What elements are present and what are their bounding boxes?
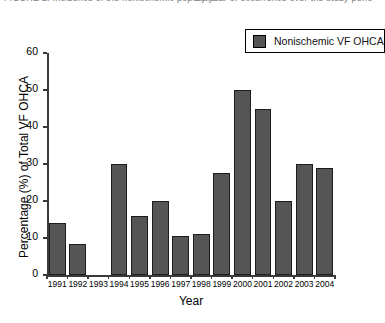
- plot-area: 0102030405060: [47, 53, 335, 275]
- x-axis-tick-label-1994: 1994: [109, 278, 130, 290]
- bar-1996: [152, 201, 169, 275]
- y-axis-tick: 10: [43, 237, 47, 239]
- x-axis-tick-label-1991: 1991: [47, 278, 68, 290]
- x-axis-tick-label-1998: 1998: [191, 278, 212, 290]
- x-axis-tick-label-1993: 1993: [88, 278, 109, 290]
- clipped-caption-sliver: FIGURE 2. Incidence of the nonischemic p…: [0, 0, 373, 7]
- bar-2000: [234, 90, 251, 275]
- bar-1994: [111, 164, 128, 275]
- bar-1997: [172, 236, 189, 275]
- x-axis-tick-label-1999: 1999: [212, 278, 233, 290]
- bar-1991: [49, 223, 66, 275]
- legend-label-nonischemic-vf-ohca: Nonischemic VF OHCA: [274, 35, 384, 47]
- y-axis-tick: 60: [43, 52, 47, 54]
- y-axis-tick: 30: [43, 163, 47, 165]
- bar-2004: [316, 168, 333, 275]
- y-axis-tick-label: 40: [26, 119, 38, 131]
- x-axis-tick-label-2003: 2003: [294, 278, 315, 290]
- legend-swatch-nonischemic-vf-ohca: [253, 35, 266, 48]
- bar-1998: [193, 234, 210, 275]
- y-axis-tick-label: 60: [26, 45, 38, 57]
- y-axis-tick: 50: [43, 89, 47, 91]
- bar-1992: [69, 244, 86, 275]
- x-axis-title: Year: [47, 294, 335, 308]
- x-axis-tick-label-1992: 1992: [68, 278, 89, 290]
- y-axis-tick-label: 0: [32, 267, 38, 279]
- bar-1999: [213, 173, 230, 275]
- y-axis-tick-label: 20: [26, 193, 38, 205]
- chart-legend: Nonischemic VF OHCA: [245, 29, 385, 53]
- x-axis-tick-label-1995: 1995: [129, 278, 150, 290]
- y-axis-tick-label: 30: [26, 156, 38, 168]
- x-axis-tick-label-2000: 2000: [232, 278, 253, 290]
- x-axis-tick-label-2002: 2002: [273, 278, 294, 290]
- x-axis-tick-label-2004: 2004: [314, 278, 335, 290]
- x-axis-tick-label-1996: 1996: [150, 278, 171, 290]
- y-axis-tick-label: 50: [26, 82, 38, 94]
- x-axis-tick-label-2001: 2001: [253, 278, 274, 290]
- y-axis-tick-label: 10: [26, 230, 38, 242]
- caption-fragment-left: FIGURE 2. Incidence of the nonischemic p…: [4, 0, 220, 3]
- bar-2001: [255, 109, 272, 276]
- y-axis-tick: 20: [43, 200, 47, 202]
- bar-1995: [131, 216, 148, 275]
- x-axis-tick-labels: 1991199219931994199519961997199819992000…: [47, 278, 335, 292]
- bar-2002: [275, 201, 292, 275]
- x-axis-tick-label-1997: 1997: [170, 278, 191, 290]
- bar-2003: [296, 164, 313, 275]
- caption-fragment-right: by year of occurrence over the study per…: [196, 0, 373, 3]
- y-axis-tick: 40: [43, 126, 47, 128]
